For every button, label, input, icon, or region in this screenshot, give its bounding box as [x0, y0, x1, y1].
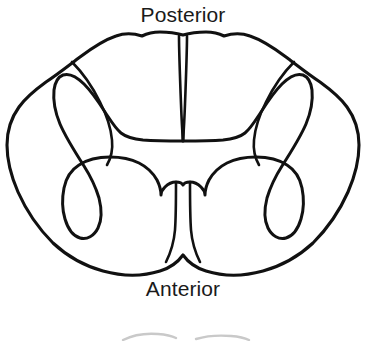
- partial-next-figure-svg: [0, 327, 366, 341]
- gray-matter-butterfly: [54, 74, 313, 238]
- ghost-outline-right: [196, 336, 249, 340]
- ghost-outline-left: [123, 334, 176, 340]
- partial-next-figure: [0, 327, 366, 341]
- white-matter-outline: [7, 32, 359, 275]
- anterior-label: Anterior: [0, 278, 366, 299]
- posterior-median-sulcus: [179, 36, 187, 141]
- figure-root: Posterior Anterior: [0, 0, 366, 341]
- anterior-median-fissure: [166, 182, 200, 262]
